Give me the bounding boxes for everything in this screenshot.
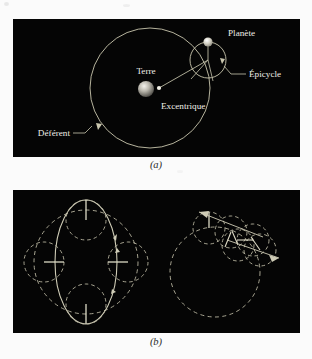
right-diagram-group: [170, 211, 279, 317]
scan-artifact: [123, 4, 130, 7]
panel-b-epicycle-variants: [13, 190, 300, 333]
panel-a-diagram: Planète Épicycle Terre Excentrique Défér…: [13, 19, 300, 157]
label-planete: Planète: [228, 28, 255, 38]
epicycle-leader-line: [224, 66, 246, 74]
panel-a-ptolemaic-model: Planète Épicycle Terre Excentrique Défér…: [13, 19, 300, 157]
right-lower-arrow-line: [227, 240, 279, 258]
right-spoke-5: [251, 237, 260, 250]
label-deferent: Déférent: [38, 128, 71, 138]
caption-b: (b): [0, 336, 312, 347]
label-epicycle: Épicycle: [249, 69, 281, 79]
scan-artifact: [177, 170, 183, 173]
deferent-leader-line: [73, 126, 92, 133]
left-diagram-group: [24, 200, 148, 324]
epicycle-direction-arrow: [220, 58, 225, 64]
panel-b-diagram: [13, 190, 300, 333]
eccentric-to-epicycle-line: [159, 60, 208, 88]
label-terre: Terre: [136, 66, 155, 76]
earth-sphere: [138, 81, 154, 97]
left-arrow-right-mid: [115, 248, 120, 253]
label-excentrique: Excentrique: [161, 101, 205, 111]
caption-a: (a): [0, 159, 312, 170]
right-upper-arrowhead: [199, 211, 209, 218]
deferent-direction-arrow: [96, 123, 102, 130]
planet-sphere: [203, 37, 212, 46]
eccentric-point: [157, 86, 161, 90]
figure-container: Planète Épicycle Terre Excentrique Défér…: [0, 0, 312, 359]
scan-artifact: [4, 2, 9, 6]
